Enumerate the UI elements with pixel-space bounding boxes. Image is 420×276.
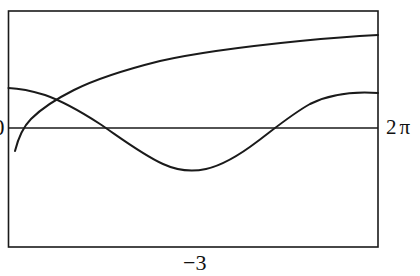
plot-figure: 0 2π −3 — [0, 0, 420, 276]
right-axis-tick-label: 2π — [386, 117, 410, 138]
pi-symbol-icon: π — [397, 115, 411, 139]
left-axis-tick-label: 0 — [0, 116, 5, 139]
bottom-axis-tick-label: −3 — [183, 252, 206, 274]
plot-frame — [9, 11, 379, 247]
series-rising-curve — [15, 35, 378, 151]
series-cosine-curve — [9, 88, 379, 170]
right-axis-number: 2 — [386, 115, 397, 139]
plot-canvas — [0, 0, 420, 276]
